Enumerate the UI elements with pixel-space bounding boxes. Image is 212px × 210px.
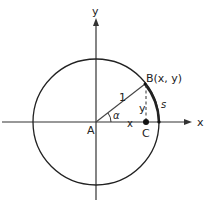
x-leg-label: x — [127, 118, 133, 129]
y-axis-arrow-icon — [93, 18, 99, 26]
x-axis-arrow-icon — [184, 119, 192, 125]
angle-alpha-arc — [108, 113, 111, 122]
arc-s-label: s — [161, 99, 166, 110]
angle-alpha-label: α — [113, 110, 120, 121]
point-c — [143, 119, 149, 125]
point-b-label: B(x, y) — [146, 72, 182, 85]
point-c-label: C — [142, 127, 150, 140]
arc-s — [145, 84, 159, 122]
y-leg-label: y — [139, 102, 146, 115]
y-axis-label: y — [92, 5, 99, 18]
x-axis-label: x — [197, 116, 204, 129]
radius-label: 1 — [119, 91, 126, 104]
point-arc-end — [157, 120, 160, 123]
unit-circle-diagram: x y B(x, y) A C 1 x y α s — [0, 0, 212, 210]
point-a-label: A — [87, 124, 95, 137]
